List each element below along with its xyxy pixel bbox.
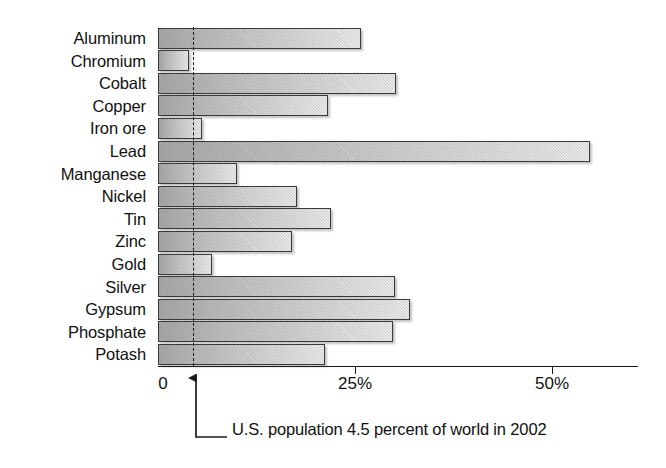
bar: [158, 299, 410, 320]
bar: [158, 28, 361, 49]
bar: [158, 208, 331, 229]
bar: [158, 141, 590, 162]
bar-row: [158, 298, 638, 321]
bar-chart: AluminumChromiumCobaltCopperIron oreLead…: [0, 0, 666, 468]
bar: [158, 95, 328, 116]
category-label: Iron ore: [0, 117, 152, 140]
bar-row: [158, 50, 638, 73]
bar: [158, 344, 325, 365]
category-label: Nickel: [0, 185, 152, 208]
x-axis-line: [158, 366, 638, 367]
category-label: Tin: [0, 208, 152, 231]
bar-row: [158, 185, 638, 208]
category-label: Chromium: [0, 50, 152, 73]
bar-row: [158, 230, 638, 253]
category-label: Gypsum: [0, 298, 152, 321]
category-label: Gold: [0, 253, 152, 276]
plot-area: [158, 27, 638, 366]
bar-row: [158, 163, 638, 186]
annotation-label: U.S. population 4.5 percent of world in …: [232, 420, 546, 439]
bar: [158, 118, 202, 139]
bar-row: [158, 72, 638, 95]
category-label: Phosphate: [0, 321, 152, 344]
category-label: Aluminum: [0, 27, 152, 50]
category-label: Silver: [0, 276, 152, 299]
bar: [158, 231, 292, 252]
bar: [158, 163, 237, 184]
category-label: Copper: [0, 95, 152, 118]
x-axis-tick: [355, 366, 356, 374]
bar-row: [158, 117, 638, 140]
reference-line-us-population: [193, 27, 194, 366]
x-axis-tick-label: 50%: [535, 374, 569, 394]
category-label: Zinc: [0, 230, 152, 253]
x-axis-tick: [552, 366, 553, 374]
bar-row: [158, 343, 638, 366]
bar: [158, 50, 189, 71]
category-label: Lead: [0, 140, 152, 163]
bar-row: [158, 253, 638, 276]
category-label: Cobalt: [0, 72, 152, 95]
bar-row: [158, 140, 638, 163]
bar-row: [158, 208, 638, 231]
bar-row: [158, 95, 638, 118]
x-axis-tick-label: 25%: [338, 374, 372, 394]
x-axis-tick-label: 0: [158, 374, 167, 394]
bar: [158, 186, 297, 207]
category-axis-labels: AluminumChromiumCobaltCopperIron oreLead…: [0, 27, 152, 366]
category-label: Manganese: [0, 163, 152, 186]
bar-row: [158, 27, 638, 50]
category-label: Potash: [0, 343, 152, 366]
bar-row: [158, 276, 638, 299]
bar-row: [158, 321, 638, 344]
bar: [158, 254, 212, 275]
